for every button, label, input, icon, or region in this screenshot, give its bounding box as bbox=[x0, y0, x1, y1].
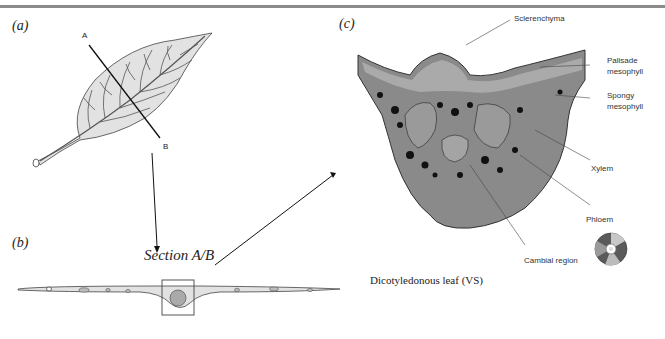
panel-label-b: (b) bbox=[12, 235, 28, 251]
label-xylem: Xylem bbox=[591, 164, 613, 174]
cd-rom-icon bbox=[595, 233, 627, 266]
diagram-artwork bbox=[0, 0, 665, 339]
label-palisade-2: mesophyll bbox=[607, 67, 643, 77]
leaf-illustration bbox=[33, 33, 212, 167]
leaf-cross-section bbox=[18, 280, 340, 315]
label-palisade-1: Palisade bbox=[607, 56, 638, 66]
label-spongy-1: Spongy bbox=[607, 91, 634, 101]
leaf-micrograph bbox=[358, 20, 590, 245]
point-label-a: A bbox=[82, 31, 87, 40]
panel-label-c: (c) bbox=[339, 16, 355, 32]
point-label-b: B bbox=[163, 142, 168, 151]
label-cambial-region: Cambial region bbox=[524, 256, 578, 266]
section-label: Section A/B bbox=[144, 247, 214, 264]
label-spongy-2: mesophyll bbox=[607, 102, 643, 112]
figure-caption: Dicotyledonous leaf (VS) bbox=[370, 274, 483, 286]
panel-label-a: (a) bbox=[12, 18, 28, 34]
label-phloem: Phloem bbox=[586, 215, 613, 225]
label-sclerenchyma: Sclerenchyma bbox=[514, 14, 565, 24]
